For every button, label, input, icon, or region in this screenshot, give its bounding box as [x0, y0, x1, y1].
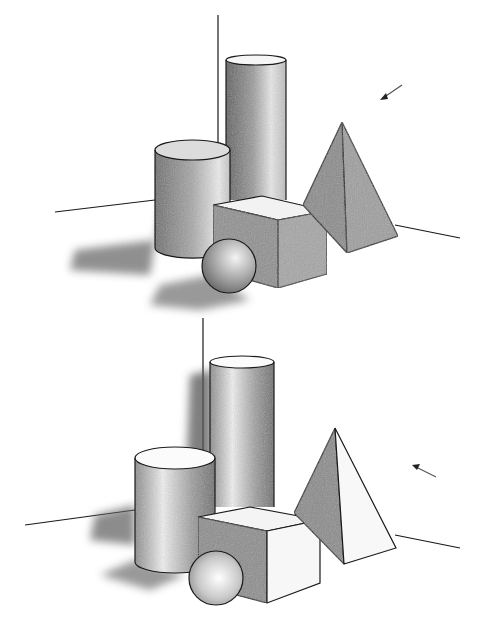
top-study [55, 15, 460, 310]
light-direction-arrow-icon [380, 85, 402, 100]
tall-cylinder [210, 356, 274, 507]
drawing-canvas [0, 0, 490, 626]
light-direction-arrow-icon [412, 464, 436, 477]
tall-cylinder [226, 55, 286, 200]
geometric-solids-drawing [0, 0, 490, 626]
sphere [202, 239, 256, 293]
floor-line-left [55, 200, 155, 212]
bottom-study [25, 318, 460, 605]
floor-line-right [395, 225, 460, 238]
floor-line-right [395, 535, 460, 548]
sphere [189, 551, 243, 605]
